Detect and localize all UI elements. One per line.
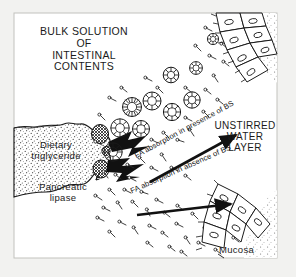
figure-canvas: BULK SOLUTION OF INTESTINAL CONTENTS UNS… [0,0,296,277]
fat-absorption-diagram [0,0,296,277]
